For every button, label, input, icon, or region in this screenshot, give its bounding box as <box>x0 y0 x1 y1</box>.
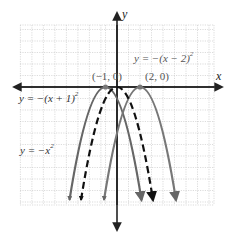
parabola-graph: y x y = −(x − 2)2 y = −(x + 1)2 y = −x2 … <box>0 0 238 240</box>
vertex-point-left <box>103 84 108 89</box>
point-label-right: (2, 0) <box>145 70 169 83</box>
y-axis-label: y <box>121 7 128 21</box>
equation-shift-right: y = −(x − 2)2 <box>133 50 194 65</box>
equation-base: y = −x2 <box>19 142 54 156</box>
point-label-left: (−1, 0) <box>92 70 122 83</box>
equation-shift-left: y = −(x + 1)2 <box>18 90 79 105</box>
x-axis-label: x <box>215 69 222 83</box>
vertex-point-right <box>137 84 142 89</box>
